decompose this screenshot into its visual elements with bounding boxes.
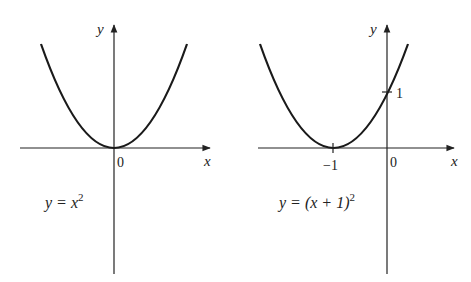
right-x-tick-label: −1 xyxy=(323,158,338,173)
left-graph: y x 0 y = x2 xyxy=(20,21,211,274)
right-y-label: y xyxy=(368,21,377,37)
right-parabola xyxy=(260,44,408,148)
left-equation: y = x2 xyxy=(43,191,84,212)
right-origin-label: 0 xyxy=(390,155,397,170)
left-y-label: y xyxy=(95,21,104,37)
right-x-label: x xyxy=(450,153,458,169)
right-equation: y = (x + 1)2 xyxy=(277,191,355,212)
left-origin-label: 0 xyxy=(117,155,124,170)
right-y-tick-label: 1 xyxy=(396,86,403,101)
figure: y x 0 y = x2 y x 0 −1 1 y = (x + 1)2 xyxy=(0,0,471,282)
right-graph: y x 0 −1 1 y = (x + 1)2 xyxy=(258,21,458,274)
left-x-label: x xyxy=(203,153,211,169)
